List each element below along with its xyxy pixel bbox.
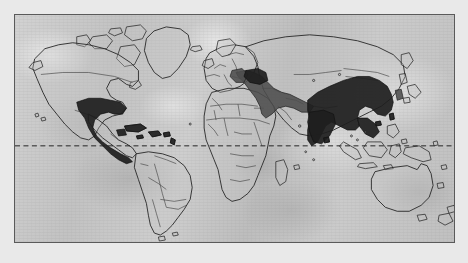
landmass-greenland [144,27,190,79]
range-region-indochina [357,118,379,138]
range-islet-yucatan [117,129,127,136]
landmass-new-caledonia [437,183,444,189]
landmass-sumatra [340,142,362,160]
landmass-tasmania [417,214,427,221]
landmass-java [357,163,377,169]
landmass-philippines [387,124,399,138]
range-islet-taiwan [389,113,394,120]
landmass-japan [407,84,421,98]
islet-pacific-b [313,79,315,81]
range-islet-hispaniola [148,131,161,137]
landmass-falklands [172,232,178,236]
landmass-ellesmere [125,25,147,41]
islet-pacific-f [356,139,358,141]
islet-indian-b [305,151,307,153]
islet-atlantic-a [189,123,191,125]
distribution-map-figure [0,0,468,263]
landmass-arctic-islet-1 [109,28,123,36]
map-frame [14,14,455,243]
islet-indian-a [313,159,315,161]
range-islet-cuba [125,124,147,132]
landmass-madagascar-islet [294,165,300,170]
landmass-australia [371,164,433,212]
landmass-moluccas [401,139,407,144]
landmass-japan-south [403,97,410,103]
landmass-iceland [190,46,202,52]
landmass-new-zealand-south [438,213,453,225]
landmass-pacific-islet-2 [433,141,438,146]
range-islet-jamaica [136,135,143,139]
landmass-madagascar [276,160,288,186]
landmass-north-america [33,43,139,140]
range-islet-antilles [170,138,175,145]
islet-pacific-a [299,125,301,127]
landmass-tierra-del-fuego [158,236,165,241]
range-islet-korea [395,89,403,100]
islet-pacific-d [364,131,366,133]
landmass-kamchatka [401,53,413,69]
landmass-borneo [363,142,387,158]
islet-pacific-e [350,135,352,137]
range-islet-puerto-rico [163,132,170,137]
landmass-new-guinea [403,146,431,162]
range-islet-sri-lanka [324,137,330,143]
landmass-hawaii-islet-2 [35,113,39,117]
landmass-pacific-islet-1 [441,165,447,170]
landmass-new-zealand-north [447,205,454,213]
landmass-hawaii [41,117,46,121]
islet-pacific-c [338,73,340,75]
range-islet-hainan [375,121,381,126]
world-map-graphic [15,15,454,242]
